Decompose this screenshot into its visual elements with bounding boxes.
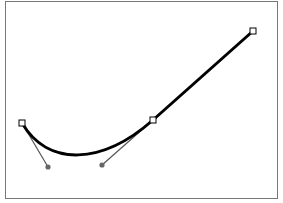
handle-start-dot[interactable] — [45, 164, 50, 169]
handle-middle-dot[interactable] — [99, 162, 104, 167]
anchor-middle[interactable] — [150, 117, 156, 123]
anchor-start[interactable] — [19, 120, 25, 126]
anchor-end[interactable] — [250, 28, 256, 34]
bezier-diagram — [0, 0, 283, 203]
